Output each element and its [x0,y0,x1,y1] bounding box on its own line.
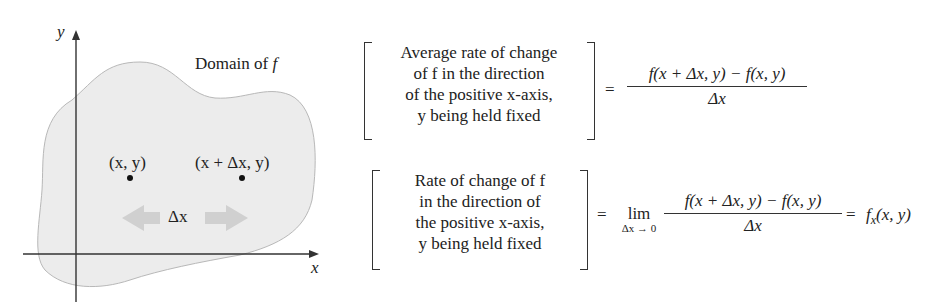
eq2-line: y being held fixed [380,233,580,254]
eq1-fraction: f(x + Δx, y) − f(x, y) Δx [627,64,807,109]
left-bracket-2 [372,170,380,270]
eq2-line: the positive x-axis, [380,212,580,233]
eq1-line: Average rate of change [372,42,586,63]
eq1-description: Average rate of change of f in the direc… [372,42,586,126]
limit-operator: lim Δx → 0 [618,205,660,234]
eq2-line: in the direction of [380,191,580,212]
right-bracket-1 [587,42,595,140]
right-bracket-2 [580,170,588,270]
eq1-denominator: Δx [627,87,807,109]
point-xy [127,175,133,181]
eq2-equals: = [597,205,607,225]
point-x-plus-dx [239,175,245,181]
eq1-equals: = [605,80,615,100]
domain-figure: y x Domain of f (x, y) (x + Δx, y) Δx [0,0,340,302]
eq1-numerator: f(x + Δx, y) − f(x, y) [627,64,807,87]
eq2-fraction: f(x + Δx, y) − f(x, y) Δx [664,191,842,236]
domain-diagram [0,0,340,302]
delta-x-label: Δx [168,207,187,227]
domain-region [38,62,315,287]
eq2-description: Rate of change of f in the direction of … [380,170,580,254]
y-axis-label: y [57,22,65,42]
lim-word: lim [618,205,660,222]
eq2-denominator: Δx [664,214,842,236]
region-label: Domain of f [195,54,277,74]
lim-subscript: Δx → 0 [618,222,660,234]
eq1-line: of the positive x-axis, [372,84,586,105]
eq2-equals-result: = [846,205,856,225]
point1-label: (x, y) [109,153,146,173]
eq2-line: Rate of change of f [380,170,580,191]
x-axis-arrow-icon [309,250,319,258]
eq1-line: y being held fixed [372,105,586,126]
point2-label: (x + Δx, y) [195,153,269,173]
left-bracket-1 [364,42,372,140]
eq2-numerator: f(x + Δx, y) − f(x, y) [664,191,842,214]
y-axis-arrow-icon [72,30,80,40]
eq1-line: of f in the direction [372,63,586,84]
x-axis-label: x [311,258,319,278]
partial-derivative-result: fx(x, y) [866,205,911,228]
